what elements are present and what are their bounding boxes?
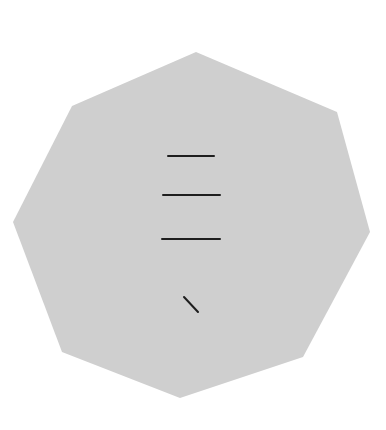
diagram-canvas [0, 0, 386, 430]
octagon-figure [0, 0, 386, 430]
octagon-shape [13, 52, 370, 398]
